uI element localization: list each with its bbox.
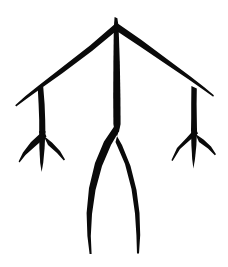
left-arm-stroke (15, 24, 118, 107)
left-leg-stroke (87, 127, 120, 254)
right-arm-stroke (115, 23, 214, 97)
drawing-canvas (0, 0, 228, 267)
figure-group (15, 17, 216, 254)
right-leg-stroke (114, 127, 140, 254)
ideogram-figure (0, 0, 228, 267)
apex-stem-stroke (113, 17, 120, 132)
right-branch-stroke (191, 86, 197, 131)
left-branch-stroke (38, 87, 46, 134)
